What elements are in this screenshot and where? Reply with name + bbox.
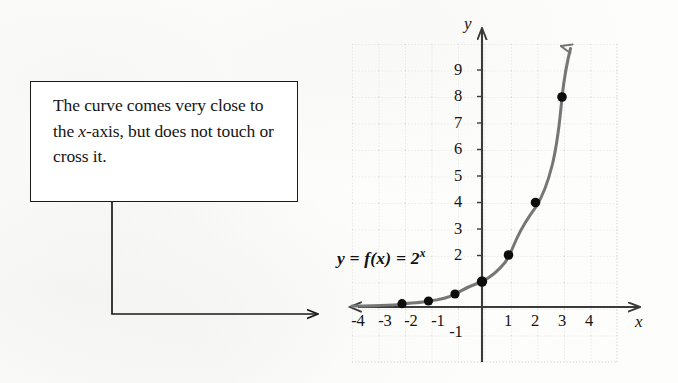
coordinate-graph: y x 9 8 7 6 5 4 3 2 -1 -4 -3 -2 -1 1 2 3…	[0, 0, 678, 383]
y-tick-6: 6	[448, 139, 468, 159]
graph-svg	[0, 0, 678, 383]
x-tick-4: 4	[578, 311, 600, 331]
data-point	[477, 276, 487, 286]
x-tick-3: 3	[551, 311, 573, 331]
data-point	[450, 289, 459, 298]
x-tick-negative-3: -3	[372, 311, 398, 331]
y-tick-5: 5	[448, 166, 468, 186]
data-point	[504, 250, 514, 260]
x-tick-negative-2: -2	[398, 311, 424, 331]
equation-fx: f(x)	[364, 248, 391, 268]
y-tick-7: 7	[448, 113, 468, 133]
data-point	[397, 299, 406, 308]
equation-equals-2: =	[391, 248, 410, 268]
figure-page: The curve comes very close to the x-axis…	[0, 0, 678, 383]
y-tick-3: 3	[448, 219, 468, 239]
x-tick-negative-1: -1	[425, 311, 451, 331]
y-tick-4: 4	[448, 192, 468, 212]
data-point	[424, 296, 433, 305]
data-point	[531, 198, 541, 208]
equation-exponent: x	[420, 247, 426, 259]
equation-lhs: y	[337, 248, 345, 268]
y-axis-label: y	[464, 14, 472, 34]
function-equation-label: y = f(x) = 2x	[337, 248, 426, 269]
x-tick-2: 2	[524, 311, 546, 331]
y-tick-9: 9	[448, 60, 468, 80]
y-tick-8: 8	[448, 86, 468, 106]
equation-base: 2	[411, 248, 420, 268]
equation-equals-1: =	[345, 248, 364, 268]
y-tick-2: 2	[448, 245, 468, 265]
x-tick-1: 1	[497, 311, 519, 331]
x-axis-label: x	[635, 312, 643, 332]
x-tick-negative-4: -4	[345, 311, 371, 331]
data-point	[557, 92, 567, 102]
